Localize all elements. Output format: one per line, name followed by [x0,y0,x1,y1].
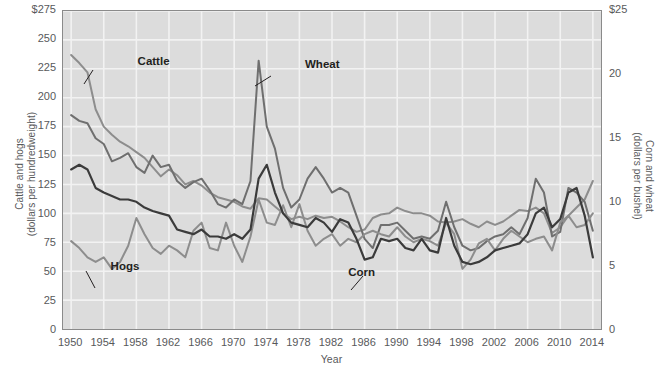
right-tick-5: 5 [609,259,653,271]
right-tick-25: $25 [609,3,653,15]
left-tick-25: 25 [12,294,56,306]
left-tick-175: 175 [12,119,56,131]
left-tick-50: 50 [12,265,56,277]
left-tick-150: 150 [12,148,56,160]
right-axis-title: Corn and wheat (dollars per bushel) [631,86,655,266]
left-tick-250: 250 [12,32,56,44]
left-tick-275: $275 [12,3,56,15]
series-label-cattle: Cattle [138,55,170,67]
right-tick-15: 15 [609,131,653,143]
left-tick-100: 100 [12,207,56,219]
x-axis-title: Year [0,353,663,365]
series-label-corn: Corn [348,266,375,278]
right-tick-20: 20 [609,67,653,79]
series-label-wheat: Wheat [305,58,340,70]
left-tick-225: 225 [12,61,56,73]
right-axis-title-line1: Corn and wheat [643,86,655,266]
series-label-hogs: Hogs [111,260,140,272]
x-tick-2014: 2014 [572,336,612,348]
right-tick-10: 10 [609,195,653,207]
left-tick-125: 125 [12,178,56,190]
left-tick-200: 200 [12,90,56,102]
left-tick-0: 0 [12,323,56,335]
right-axis-title-line2: (dollars per bushel) [631,86,643,266]
left-tick-75: 75 [12,236,56,248]
right-tick-0: 0 [609,323,653,335]
price-trends-line-chart: Cattle and hogs (dollars per hundredweig… [0,0,663,373]
